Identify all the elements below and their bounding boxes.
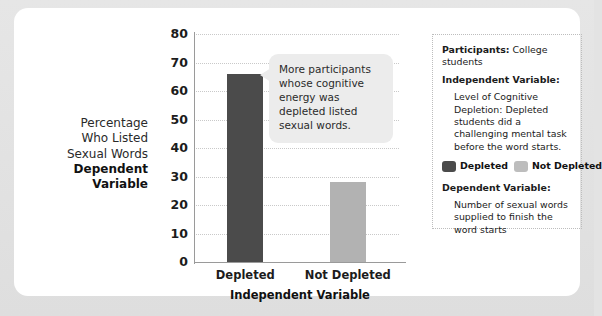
y-axis-tick-label: 80 <box>154 28 188 41</box>
legend-swatch-icon <box>514 161 528 172</box>
callout-bubble: More participants whose cognitive energy… <box>269 54 393 143</box>
x-axis-label: Depleted <box>195 268 295 282</box>
y-axis-tick-label: 40 <box>154 142 188 155</box>
independent-variable-label: Independent Variable: <box>442 74 573 86</box>
info-panel: Participants: College students Independe… <box>432 34 582 229</box>
y-axis-title: Percentage Who Listed Sexual Words Depen… <box>44 116 148 193</box>
bar-not-depleted <box>330 182 366 262</box>
y-axis-title-line-3: Sexual Words <box>44 147 148 162</box>
legend-label: Not Depleted <box>532 160 602 172</box>
legend-item: Not Depleted <box>514 160 602 172</box>
legend-item: Depleted <box>442 160 508 172</box>
independent-variable-text: Level of Cognitive Depletion: Depleted s… <box>454 91 573 153</box>
x-axis-label: Not Depleted <box>298 268 398 282</box>
legend-swatch-icon <box>442 161 456 172</box>
legend: DepletedNot Depleted <box>442 160 573 172</box>
y-axis-title-line-2: Who Listed <box>44 131 148 146</box>
dependent-variable-text: Number of sexual words supplied to finis… <box>454 199 573 236</box>
bar-chart: 80706050403020100 Percentage Who Listed … <box>14 8 414 296</box>
y-axis-tick-label: 60 <box>154 85 188 98</box>
y-axis-tick-label: 0 <box>154 256 188 269</box>
y-axis-tick-label: 20 <box>154 199 188 212</box>
content-card: 80706050403020100 Percentage Who Listed … <box>14 8 580 296</box>
x-axis-title: Independent Variable <box>194 288 406 302</box>
legend-label: Depleted <box>460 160 508 172</box>
y-axis-title-line-1: Percentage <box>44 116 148 131</box>
dependent-variable-label: Dependent Variable: <box>442 182 573 194</box>
x-axis-line <box>194 262 406 263</box>
y-axis-tick-label: 10 <box>154 228 188 241</box>
y-axis-tick-label: 30 <box>154 171 188 184</box>
y-axis-ticks: 80706050403020100 <box>152 34 188 262</box>
y-axis-tick-label: 70 <box>154 57 188 70</box>
participants-label: Participants: <box>442 44 510 55</box>
y-axis-title-bold: Dependent Variable <box>44 162 148 193</box>
participants-row: Participants: College students <box>442 44 573 69</box>
bar-depleted <box>227 74 263 262</box>
y-axis-tick-label: 50 <box>154 114 188 127</box>
